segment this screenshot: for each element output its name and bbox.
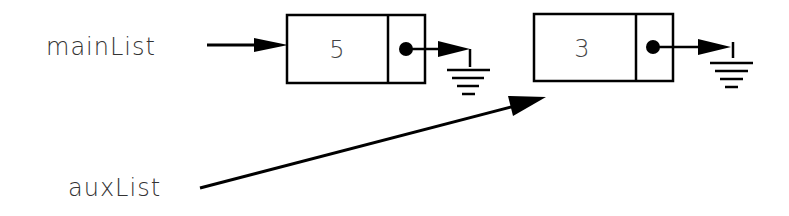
arrowhead-icon [508,96,546,116]
pointer-label-auxList: auxList [68,174,161,202]
pointer-line [200,106,515,188]
pointer-label-mainList: mainList [46,33,156,61]
node-value: 3 [574,35,589,63]
arrowhead-icon [698,39,731,55]
linked-list-diagram: mainList 5 3 [0,0,789,216]
arrowhead-icon [254,38,288,52]
list-node-2: 3 [534,14,753,87]
node-value: 5 [329,36,344,64]
arrowhead-icon [438,41,470,57]
pointer-auxList: auxList [68,96,546,202]
pointer-mainList: mainList [46,33,288,61]
null-ground-icon [447,49,490,94]
list-node-1: 5 [287,15,490,94]
